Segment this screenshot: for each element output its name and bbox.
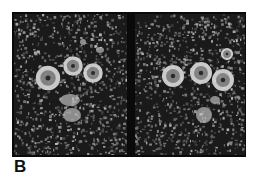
panel-label: B	[14, 158, 26, 176]
micrograph-left-image	[14, 14, 127, 155]
micrograph-right	[135, 14, 245, 155]
micrograph-left	[14, 14, 127, 155]
micrograph-right-image	[135, 14, 245, 155]
